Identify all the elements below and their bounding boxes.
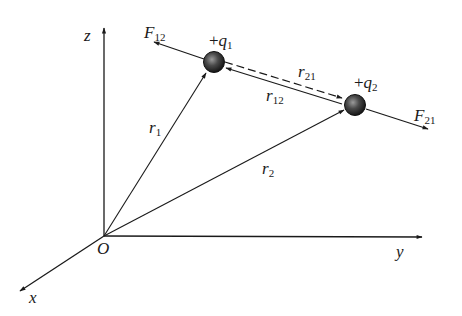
x-axis-label: x (28, 288, 37, 307)
q1-sign: + (209, 31, 219, 50)
position-vectors (104, 73, 344, 236)
r21-vector (225, 62, 342, 98)
x-axis (20, 236, 104, 291)
q2-label: +q2 (354, 73, 378, 93)
F21-label: F21 (413, 106, 435, 126)
r2-sub: 2 (269, 167, 275, 179)
F21-sub: 21 (424, 114, 435, 126)
coulomb-diagram: z y x O +q1 +q2 F12 F21 r21 r12 r1 r2 (0, 0, 462, 316)
r21-label: r21 (298, 62, 316, 82)
z-axis-label: z (83, 26, 91, 45)
force-vectors (154, 42, 428, 129)
r2-vector (104, 110, 344, 236)
r1-vector (104, 73, 206, 236)
q1-sub: 1 (227, 39, 233, 51)
r1-sub: 1 (156, 126, 162, 138)
r2-label: r2 (262, 159, 274, 179)
F21-name: F (413, 106, 425, 125)
charge-q1 (204, 52, 225, 73)
F12-sub: 12 (154, 31, 165, 43)
F12-name: F (143, 23, 155, 42)
origin-label: O (97, 239, 109, 258)
r21-sub: 21 (305, 70, 316, 82)
r12-sub: 12 (273, 94, 284, 106)
charge-q2 (345, 95, 366, 116)
F12-vector (154, 42, 204, 59)
y-axis-label: y (394, 242, 404, 261)
F12-label: F12 (143, 23, 165, 43)
r12-vector (226, 68, 342, 104)
q1-label: +q1 (209, 31, 233, 51)
q2-sign: + (354, 73, 364, 92)
y-axis (104, 236, 422, 237)
r12-label: r12 (266, 86, 284, 106)
q2-sub: 2 (372, 81, 378, 93)
r1-label: r1 (149, 118, 161, 138)
